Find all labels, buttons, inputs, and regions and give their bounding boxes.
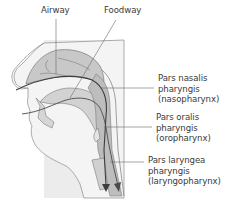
nasopharynx-label: Pars nasalis pharyngis (nasopharynx) — [158, 73, 219, 105]
laryngopharynx-label-line2: pharyngis — [148, 166, 221, 177]
foodway-label: Foodway — [104, 5, 141, 16]
laryngopharynx-label-line3: (laryngopharynx) — [148, 176, 221, 187]
nasopharynx-label-line2: pharyngis — [158, 84, 219, 95]
oropharynx-label-line2: pharyngis — [156, 123, 211, 134]
oropharynx-label: Pars oralis pharyngis (oropharynx) — [156, 112, 211, 144]
airway-label: Airway — [41, 5, 70, 16]
laryngopharynx-label-line1: Pars laryngea — [148, 155, 221, 166]
laryngopharynx-label: Pars laryngea pharyngis (laryngopharynx) — [148, 155, 221, 187]
oropharynx-label-line1: Pars oralis — [156, 112, 211, 123]
oropharynx-label-line3: (oropharynx) — [156, 133, 211, 144]
nasopharynx-label-line3: (nasopharynx) — [158, 94, 219, 105]
nasopharynx-label-line1: Pars nasalis — [158, 73, 219, 84]
